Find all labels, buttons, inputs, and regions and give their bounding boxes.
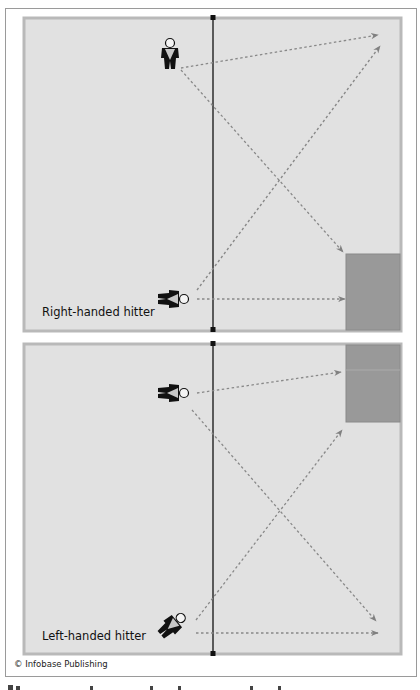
panel-label-right-handed: Right-handed hitter (42, 305, 155, 319)
net-post-icon (211, 15, 216, 20)
net-post-icon (211, 341, 216, 346)
target-zone (346, 254, 400, 330)
target-zone (346, 345, 400, 422)
net-post-icon (211, 651, 216, 656)
cropped-caption (8, 685, 281, 690)
volleyball-diagram (0, 0, 420, 690)
court-left-handed (24, 341, 401, 656)
net-post-icon (211, 327, 216, 332)
copyright-credit: © Infobase Publishing (14, 659, 108, 669)
court-right-handed (24, 15, 401, 332)
panel-label-left-handed: Left-handed hitter (42, 629, 146, 643)
